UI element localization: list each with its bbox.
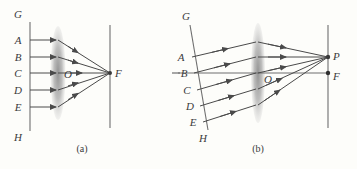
label-ray-A-a: A — [14, 34, 22, 46]
label-O-a: O — [64, 68, 72, 80]
label-ray-D-a: D — [13, 84, 22, 96]
focal-point-b — [326, 71, 330, 75]
caption-b: (b) — [252, 143, 264, 155]
label-P-b: P — [332, 50, 340, 62]
label-ray-B-b: B — [181, 67, 188, 79]
optics-diagram-svg: G H A B C D E O F (a) — [0, 0, 357, 169]
caption-a: (a) — [76, 143, 87, 155]
label-ray-C-a: C — [14, 67, 22, 79]
label-G-b: G — [182, 10, 190, 22]
label-F-a: F — [114, 67, 122, 79]
label-ray-C-b: C — [183, 84, 191, 96]
label-F-b: F — [332, 70, 340, 82]
label-O-b: O — [264, 73, 272, 85]
label-ray-D-b: D — [185, 100, 194, 112]
label-H-b: H — [198, 132, 208, 144]
image-point-P — [326, 55, 330, 59]
focal-point-a — [108, 71, 112, 75]
label-ray-E-b: E — [189, 116, 197, 128]
optics-figure: G H A B C D E O F (a) — [0, 0, 357, 169]
label-H-a: H — [13, 131, 23, 143]
label-ray-A-b: A — [177, 51, 185, 63]
label-ray-B-a: B — [15, 51, 22, 63]
label-G-a: G — [14, 8, 22, 20]
label-ray-E-a: E — [14, 101, 22, 113]
